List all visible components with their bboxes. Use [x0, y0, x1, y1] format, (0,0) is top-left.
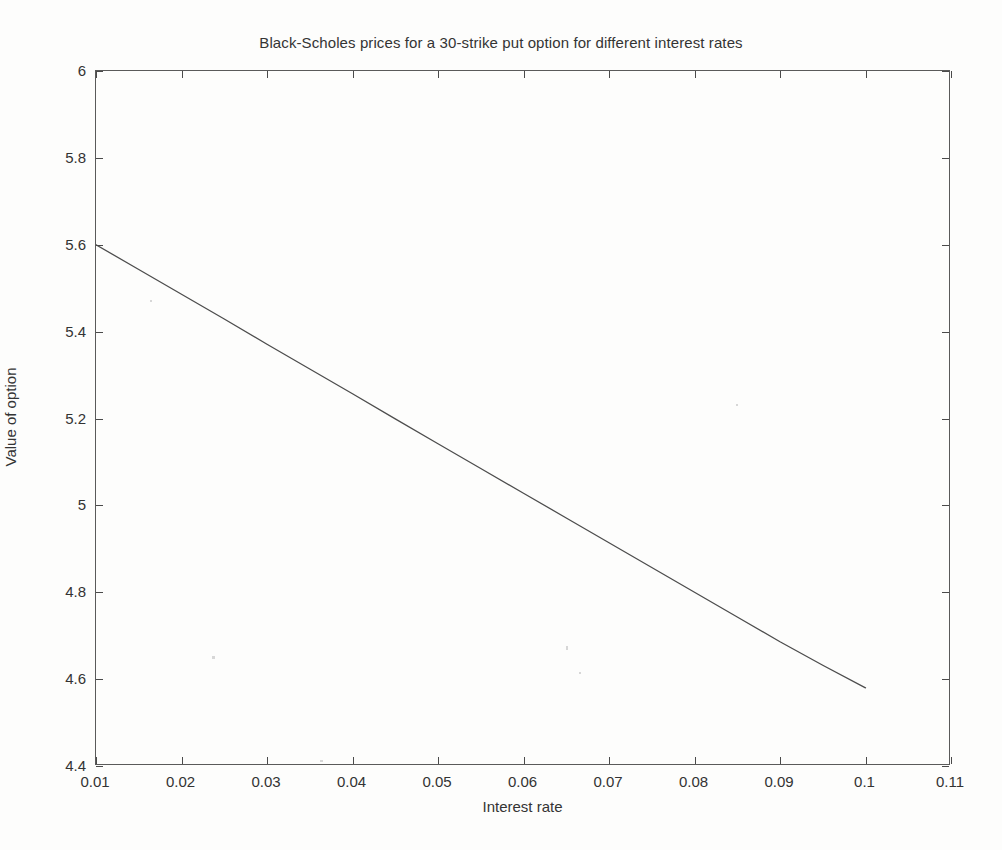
x-tick-label: 0.09 — [764, 773, 793, 790]
y-tick-mark-right — [942, 592, 949, 593]
x-tick-label: 0.06 — [508, 773, 537, 790]
y-tick-label: 5 — [40, 496, 86, 513]
y-tick-mark-right — [942, 419, 949, 420]
x-tick-label: 0.01 — [80, 773, 109, 790]
x-tick-mark-top — [96, 71, 97, 78]
x-tick-mark — [182, 757, 183, 764]
x-tick-mark — [609, 757, 610, 764]
y-tick-mark-right — [942, 505, 949, 506]
y-tick-mark-right — [942, 332, 949, 333]
x-tick-label: 0.05 — [422, 773, 451, 790]
x-tick-mark-top — [609, 71, 610, 78]
y-tick-label: 5.4 — [40, 322, 86, 339]
chart-title: Black-Scholes prices for a 30-strike put… — [0, 34, 1002, 51]
x-tick-mark — [951, 757, 952, 764]
y-tick-label: 4.8 — [40, 583, 86, 600]
x-tick-label: 0.07 — [593, 773, 622, 790]
y-tick-mark-right — [942, 766, 949, 767]
y-tick-mark — [96, 71, 103, 72]
y-tick-label: 4.4 — [40, 757, 86, 774]
x-tick-mark — [353, 757, 354, 764]
y-tick-mark — [96, 245, 103, 246]
chart-figure: Black-Scholes prices for a 30-strike put… — [0, 0, 1002, 850]
x-tick-mark — [866, 757, 867, 764]
plot-area — [95, 70, 950, 765]
y-tick-mark-right — [942, 245, 949, 246]
y-tick-mark — [96, 419, 103, 420]
x-tick-mark — [438, 757, 439, 764]
x-tick-mark — [780, 757, 781, 764]
y-tick-label: 6 — [40, 62, 86, 79]
x-tick-mark — [96, 757, 97, 764]
page-background: Black-Scholes prices for a 30-strike put… — [0, 0, 1002, 850]
x-tick-label: 0.02 — [166, 773, 195, 790]
x-tick-label: 0.03 — [251, 773, 280, 790]
x-tick-mark — [695, 757, 696, 764]
y-tick-mark — [96, 766, 103, 767]
y-tick-mark — [96, 332, 103, 333]
x-tick-mark-top — [780, 71, 781, 78]
y-tick-mark — [96, 158, 103, 159]
x-tick-mark-top — [267, 71, 268, 78]
data-line-svg — [96, 71, 951, 766]
x-tick-mark-top — [353, 71, 354, 78]
x-tick-mark-top — [695, 71, 696, 78]
y-tick-mark-right — [942, 158, 949, 159]
y-tick-label: 5.2 — [40, 409, 86, 426]
x-tick-label: 0.1 — [854, 773, 875, 790]
x-tick-mark-top — [438, 71, 439, 78]
x-tick-label: 0.11 — [936, 773, 964, 790]
y-tick-mark — [96, 592, 103, 593]
y-axis-title: Value of option — [2, 368, 19, 467]
y-tick-label: 4.6 — [40, 670, 86, 687]
data-series-line — [96, 245, 866, 688]
x-tick-mark — [267, 757, 268, 764]
y-tick-mark-right — [942, 679, 949, 680]
x-tick-mark — [524, 757, 525, 764]
x-tick-label: 0.08 — [679, 773, 708, 790]
x-tick-label: 0.04 — [337, 773, 366, 790]
x-tick-mark-top — [951, 71, 952, 78]
x-axis-title: Interest rate — [95, 798, 950, 815]
y-tick-mark — [96, 679, 103, 680]
y-tick-mark-right — [942, 71, 949, 72]
y-tick-mark — [96, 505, 103, 506]
y-tick-label: 5.8 — [40, 148, 86, 165]
x-tick-mark-top — [524, 71, 525, 78]
y-tick-label: 5.6 — [40, 235, 86, 252]
x-tick-mark-top — [182, 71, 183, 78]
x-tick-mark-top — [866, 71, 867, 78]
